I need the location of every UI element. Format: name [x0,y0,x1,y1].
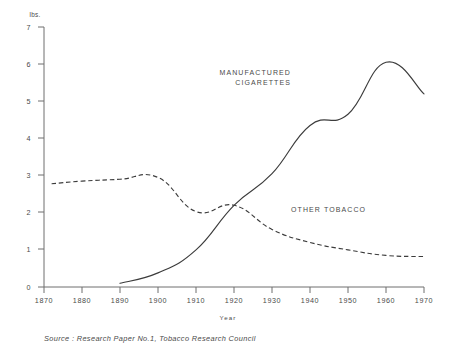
chart-figure: 7 6 5 4 3 2 1 0 lbs. 1870 1880 1890 1900… [0,0,449,355]
x-tick-label-1930: 1930 [263,296,281,305]
source-note: Source : Research Paper No.1, Tobacco Re… [44,334,256,343]
y-tick-label-0: 0 [26,283,31,292]
series-label-other-tobacco: OTHER TOBACCO [291,206,366,213]
x-tick-label-1950: 1950 [339,296,357,305]
series-label-manufactured-cigarettes-line1: MANUFACTURED [219,69,291,76]
x-tick-label-1910: 1910 [187,296,205,305]
series-line-manufactured-cigarettes [120,62,424,283]
x-tick-label-1920: 1920 [225,296,243,305]
x-tick-label-1960: 1960 [377,296,395,305]
x-axis-ticks [44,287,424,293]
y-axis-unit-label: lbs. [29,11,40,18]
y-tick-label-2: 2 [26,208,31,217]
y-tick-label-7: 7 [26,23,31,32]
x-tick-label-1890: 1890 [111,296,129,305]
x-tick-label-1900: 1900 [149,296,167,305]
x-tick-label-1970: 1970 [415,296,433,305]
y-tick-label-6: 6 [26,60,31,69]
y-tick-label-3: 3 [26,171,31,180]
series-line-other-tobacco [52,175,424,257]
series-label-manufactured-cigarettes-line2: CIGARETTES [235,79,291,86]
y-tick-label-4: 4 [26,134,31,143]
y-tick-label-5: 5 [26,97,31,106]
x-tick-label-1940: 1940 [301,296,319,305]
x-tick-label-1870: 1870 [35,296,53,305]
y-axis-ticks [38,27,44,287]
line-chart: 7 6 5 4 3 2 1 0 lbs. 1870 1880 1890 1900… [0,0,449,355]
y-tick-label-1: 1 [26,245,31,254]
x-tick-label-1880: 1880 [73,296,91,305]
x-axis-title: Year [220,314,237,321]
